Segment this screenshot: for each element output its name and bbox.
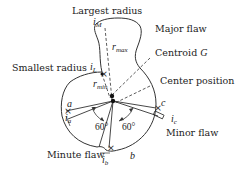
centroid-leader bbox=[112, 58, 150, 95]
flaw-diagram: × × × × Largest radius Smallest radius M… bbox=[0, 0, 241, 177]
ib-label: ib bbox=[102, 154, 109, 167]
rmax-label: rmax bbox=[112, 41, 128, 54]
object-outline bbox=[61, 18, 156, 151]
angle-left-label: 60° bbox=[95, 122, 109, 132]
b-label: b bbox=[130, 150, 135, 161]
minute-flaw-label: Minute flaw bbox=[47, 149, 105, 160]
center-leader bbox=[115, 86, 150, 103]
largest-radius-label: Largest radius bbox=[72, 5, 142, 16]
iL-label: iL bbox=[90, 61, 97, 74]
c-label: c bbox=[161, 97, 166, 108]
x-marker: × bbox=[100, 68, 108, 79]
center-dot bbox=[111, 99, 115, 103]
x-marker-b: × bbox=[107, 142, 115, 153]
a-label: a bbox=[67, 98, 72, 109]
minor-flaw-label: Minor flaw bbox=[166, 127, 218, 138]
angle-right-label: 60° bbox=[122, 122, 136, 132]
centroid-label: Centroid G bbox=[155, 47, 207, 58]
centroid-dot bbox=[110, 94, 114, 98]
line-to-a bbox=[66, 101, 113, 111]
line-to-c-2 bbox=[113, 101, 158, 116]
smallest-radius-label: Smallest radius bbox=[12, 62, 87, 73]
center-position-label: Center position bbox=[160, 75, 234, 86]
major-flaw-label: Major flaw bbox=[155, 23, 207, 34]
arrowhead bbox=[119, 117, 124, 121]
ic-label: ic bbox=[171, 113, 178, 126]
line-to-c bbox=[113, 101, 156, 108]
line-to-a-2 bbox=[68, 101, 113, 119]
rmin-label: rmin bbox=[93, 78, 108, 91]
